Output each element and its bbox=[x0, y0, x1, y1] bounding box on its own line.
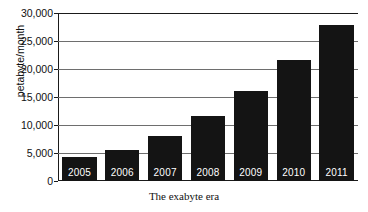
bar-series: 2005200620072008200920102011 bbox=[58, 13, 358, 181]
bar-group-2006: 2006 bbox=[105, 150, 139, 181]
bar-group-2005: 2005 bbox=[62, 157, 96, 181]
y-tick-label-25000: 25,000 bbox=[21, 35, 53, 47]
y-tick-label-15000: 15,000 bbox=[21, 91, 53, 103]
bar-label-2011: 2011 bbox=[325, 167, 347, 181]
plot-area: 05,00010,00015,00020,00025,00030,000 200… bbox=[58, 13, 358, 181]
bar-label-2007: 2007 bbox=[154, 167, 177, 181]
bar-label-2005: 2005 bbox=[68, 167, 91, 181]
y-tick-label-5000: 5,000 bbox=[27, 147, 53, 159]
bar-2005: 2005 bbox=[62, 157, 96, 181]
bar-label-2008: 2008 bbox=[196, 167, 219, 181]
y-tick-label-20000: 20,000 bbox=[21, 63, 53, 75]
bar-label-2006: 2006 bbox=[111, 167, 134, 181]
bar-group-2011: 2011 bbox=[319, 25, 353, 181]
bar-label-2010: 2010 bbox=[282, 167, 305, 181]
y-tick-mark-0 bbox=[54, 181, 58, 182]
y-tick-label-0: 0 bbox=[47, 175, 53, 187]
bar-2007: 2007 bbox=[148, 136, 182, 181]
bar-2011: 2011 bbox=[319, 25, 353, 181]
x-axis-title: The exabyte era bbox=[0, 190, 368, 202]
bar-2010: 2010 bbox=[277, 60, 311, 181]
bar-2006: 2006 bbox=[105, 150, 139, 181]
bar-group-2009: 2009 bbox=[234, 91, 268, 181]
bar-2008: 2008 bbox=[191, 116, 225, 181]
bar-group-2007: 2007 bbox=[148, 136, 182, 181]
bar-label-2009: 2009 bbox=[239, 167, 262, 181]
y-tick-label-10000: 10,000 bbox=[21, 119, 53, 131]
bar-group-2008: 2008 bbox=[191, 116, 225, 181]
bar-chart: petabyte/month 05,00010,00015,00020,0002… bbox=[0, 0, 368, 212]
bar-group-2010: 2010 bbox=[277, 60, 311, 181]
y-tick-label-30000: 30,000 bbox=[21, 7, 53, 19]
bar-2009: 2009 bbox=[234, 91, 268, 181]
